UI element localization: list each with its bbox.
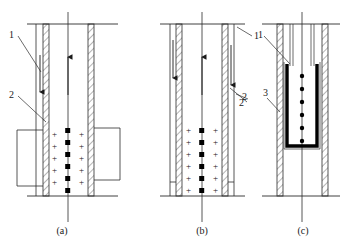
svg-text:+: + xyxy=(213,137,218,147)
panel-a-label-2: 2 xyxy=(9,89,14,100)
svg-text:+: + xyxy=(79,129,84,139)
svg-text:+: + xyxy=(186,173,191,183)
panel-a-left-wall xyxy=(43,24,49,196)
svg-text:+: + xyxy=(213,125,218,135)
panel-b-leader-1 xyxy=(237,27,252,36)
panel-b-right-wall xyxy=(222,24,228,196)
svg-text:+: + xyxy=(213,149,218,159)
svg-text:+: + xyxy=(186,161,191,171)
panel-c-caption: (c) xyxy=(297,225,308,237)
panel-a-label-1: 1 xyxy=(9,29,14,40)
panel-a-leader-1 xyxy=(18,36,41,72)
panel-a: + + + + + + + + + + 1 2 (a) xyxy=(9,12,120,237)
panel-b-caption: (b) xyxy=(196,225,208,237)
panel-c-label-1: 1 xyxy=(258,29,263,40)
panel-b-right-charges: + + + + + + xyxy=(213,125,218,195)
svg-text:+: + xyxy=(186,125,191,135)
panel-c-label-2: 2 xyxy=(242,91,247,102)
panel-b-left-wall xyxy=(176,24,182,196)
svg-text:+: + xyxy=(186,137,191,147)
panel-b-left-charges: + + + + + + xyxy=(186,125,191,195)
figure-container: + + + + + + + + + + 1 2 (a) xyxy=(0,0,347,244)
panel-a-leader-2 xyxy=(18,96,46,122)
svg-text:+: + xyxy=(52,129,57,139)
panel-a-right-charges: + + + + + xyxy=(79,129,84,187)
panel-c-label-3: 3 xyxy=(263,87,268,98)
panel-c-right-wall xyxy=(322,24,328,196)
panel-a-right-wall xyxy=(88,24,94,196)
panel-a-left-charges: + + + + + xyxy=(52,129,57,187)
panel-b: + + + + + + + + + + + + 1 2 (b) xyxy=(160,12,259,237)
svg-text:+: + xyxy=(186,149,191,159)
panel-a-caption: (a) xyxy=(56,225,67,237)
svg-text:+: + xyxy=(79,153,84,163)
svg-text:+: + xyxy=(213,185,218,195)
svg-text:+: + xyxy=(79,141,84,151)
panel-a-left-side-box xyxy=(17,130,43,186)
panel-a-right-side-box xyxy=(94,128,120,180)
svg-text:+: + xyxy=(79,177,84,187)
panel-c: 1 2 3 (c) xyxy=(236,12,340,237)
svg-text:+: + xyxy=(52,177,57,187)
svg-text:+: + xyxy=(213,173,218,183)
svg-text:+: + xyxy=(52,153,57,163)
svg-text:+: + xyxy=(186,185,191,195)
svg-text:+: + xyxy=(213,161,218,171)
svg-text:+: + xyxy=(52,165,57,175)
svg-text:+: + xyxy=(52,141,57,151)
svg-text:+: + xyxy=(79,165,84,175)
